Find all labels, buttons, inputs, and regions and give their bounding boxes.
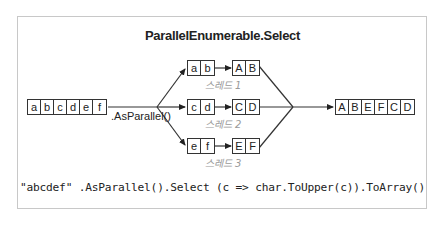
input-cell: d <box>67 100 80 114</box>
thread-2-label: 스레드 2 <box>183 116 263 131</box>
thread-cell: B <box>246 61 259 75</box>
thread-cell: a <box>188 61 201 75</box>
output-cell: F <box>375 100 388 114</box>
thread-cell: F <box>246 139 259 153</box>
thread-2-output: C D <box>232 99 260 115</box>
operator-label: .AsParallel() <box>111 110 171 122</box>
thread-cell: C <box>233 100 246 114</box>
input-cell: e <box>80 100 93 114</box>
thread-cell: A <box>233 61 246 75</box>
output-cell: D <box>401 100 414 114</box>
thread-cell: E <box>233 139 246 153</box>
output-cell: B <box>349 100 362 114</box>
output-cell: A <box>336 100 349 114</box>
thread-3-label: 스레드 3 <box>183 155 263 170</box>
thread-1-input: a b <box>187 60 215 76</box>
thread-3-input: e f <box>187 138 215 154</box>
thread-cell: f <box>201 139 214 153</box>
input-cell: b <box>41 100 54 114</box>
thread-1-output: A B <box>232 60 260 76</box>
thread-cell: c <box>188 100 201 114</box>
input-array: a b c d e f <box>27 99 107 115</box>
code-snippet: "abcdef" .AsParallel().Select (c => char… <box>0 181 445 194</box>
input-cell: f <box>93 100 106 114</box>
thread-cell: D <box>246 100 259 114</box>
input-cell: a <box>28 100 41 114</box>
output-cell: C <box>388 100 401 114</box>
thread-1-label: 스레드 1 <box>183 77 263 92</box>
thread-cell: e <box>188 139 201 153</box>
output-array: A B E F C D <box>335 99 415 115</box>
thread-3-output: E F <box>232 138 260 154</box>
thread-cell: d <box>201 100 214 114</box>
input-cell: c <box>54 100 67 114</box>
thread-cell: b <box>201 61 214 75</box>
output-cell: E <box>362 100 375 114</box>
thread-2-input: c d <box>187 99 215 115</box>
